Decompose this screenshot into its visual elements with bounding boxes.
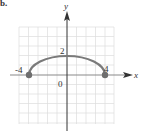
x-axis-label: x: [133, 70, 138, 80]
part-label: b.: [0, 0, 7, 8]
label-neg-four: -4: [15, 65, 23, 75]
label-pos-four: 4: [104, 64, 109, 74]
y-axis-label: y: [63, 1, 68, 11]
endpoint-left: [26, 72, 32, 78]
label-two: 2: [60, 46, 65, 56]
label-origin: 0: [58, 79, 63, 89]
graph-figure: b. x y -4 4 2 0: [0, 0, 141, 133]
